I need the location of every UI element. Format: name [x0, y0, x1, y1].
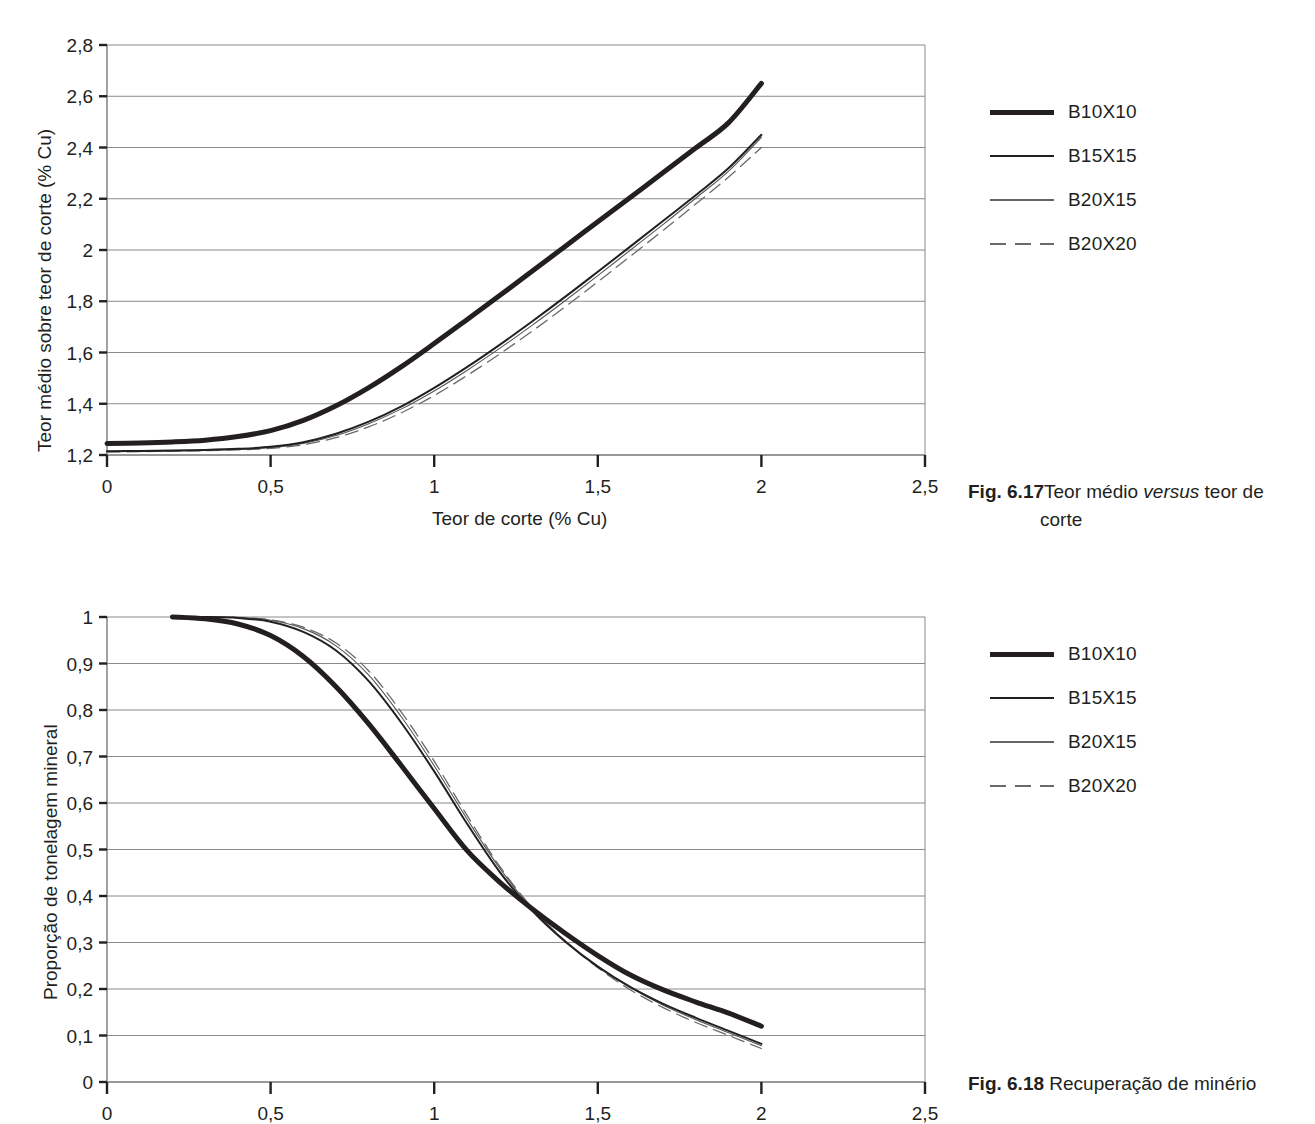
chart-2-y-axis-title: Proporção de tonelagem mineral	[40, 724, 62, 1000]
legend-item[interactable]: B20X15	[990, 720, 1137, 764]
series-line-B20X20	[172, 617, 761, 1049]
series-line-B20X15	[172, 617, 761, 1046]
chart-1-x-axis-title: Teor de corte (% Cu)	[432, 508, 607, 530]
svg-text:1,2: 1,2	[67, 445, 93, 466]
caption-text-line2: corte	[968, 506, 1308, 534]
chart-1-y-axis-title: Teor médio sobre teor de corte (% Cu)	[34, 129, 56, 452]
legend-line-swatch-thick	[990, 646, 1054, 662]
legend-label: B20X15	[1068, 731, 1137, 753]
legend-label: B15X15	[1068, 145, 1137, 167]
caption-text: Recuperação de minério	[1044, 1073, 1256, 1094]
svg-text:1,5: 1,5	[585, 1103, 611, 1124]
legend-item[interactable]: B15X15	[990, 676, 1137, 720]
chart-proporcao-tonelagem: 00,10,20,30,40,50,60,70,80,9100,511,522,…	[0, 575, 960, 1124]
caption-number: Fig. 6.17	[968, 481, 1044, 502]
legend-item[interactable]: B10X10	[990, 90, 1137, 134]
svg-text:1: 1	[429, 1103, 440, 1124]
legend-label: B10X10	[1068, 101, 1137, 123]
legend-item[interactable]: B15X15	[990, 134, 1137, 178]
svg-text:0,8: 0,8	[67, 700, 93, 721]
figure-caption-6-17: Fig. 6.17Teor médio versus teor de corte	[968, 478, 1308, 534]
caption-number: Fig. 6.18	[968, 1073, 1044, 1094]
legend-item[interactable]: B20X20	[990, 222, 1137, 266]
chart-1-canvas: 1,21,41,61,822,22,42,62,800,511,522,5	[0, 0, 960, 540]
svg-text:1: 1	[82, 607, 93, 628]
svg-text:2,5: 2,5	[912, 476, 938, 497]
svg-text:1,6: 1,6	[67, 343, 93, 364]
svg-text:1,5: 1,5	[585, 476, 611, 497]
legend-line-swatch-dashed	[990, 778, 1054, 794]
caption-text-b: teor de	[1199, 481, 1263, 502]
legend-line-swatch-thin	[990, 734, 1054, 750]
caption-emphasis: versus	[1143, 481, 1199, 502]
figure-caption-6-18: Fig. 6.18 Recuperação de minério	[968, 1070, 1308, 1098]
legend-label: B20X20	[1068, 775, 1137, 797]
svg-text:2,5: 2,5	[912, 1103, 938, 1124]
svg-text:1: 1	[429, 476, 440, 497]
svg-text:0,6: 0,6	[67, 793, 93, 814]
legend-label: B15X15	[1068, 687, 1137, 709]
legend-label: B20X20	[1068, 233, 1137, 255]
legend-label: B20X15	[1068, 189, 1137, 211]
svg-text:1,4: 1,4	[67, 394, 94, 415]
series-line-B20X15	[107, 137, 761, 451]
svg-text:2,2: 2,2	[67, 189, 93, 210]
legend-line-swatch-dashed	[990, 236, 1054, 252]
svg-text:2: 2	[82, 240, 93, 261]
svg-text:2,4: 2,4	[67, 138, 94, 159]
svg-text:0,7: 0,7	[67, 747, 93, 768]
series-line-B10X10	[172, 617, 761, 1026]
chart-2-canvas: 00,10,20,30,40,50,60,70,80,9100,511,522,…	[0, 575, 960, 1124]
series-line-B15X15	[172, 617, 761, 1044]
legend-item[interactable]: B10X10	[990, 632, 1137, 676]
legend-item[interactable]: B20X20	[990, 764, 1137, 808]
svg-text:0,5: 0,5	[257, 476, 283, 497]
legend-line-swatch-thick	[990, 104, 1054, 120]
legend-line-swatch-medium	[990, 148, 1054, 164]
svg-text:0,3: 0,3	[67, 933, 93, 954]
legend-label: B10X10	[1068, 643, 1137, 665]
svg-text:0: 0	[102, 476, 113, 497]
svg-text:0,1: 0,1	[67, 1026, 93, 1047]
svg-text:2,6: 2,6	[67, 86, 93, 107]
chart-2-legend: B10X10 B15X15 B20X15 B20X20	[990, 632, 1137, 808]
caption-text-a: Teor médio	[1044, 481, 1143, 502]
svg-text:1,8: 1,8	[67, 291, 93, 312]
series-line-B20X20	[107, 148, 761, 452]
svg-text:0,4: 0,4	[67, 886, 94, 907]
svg-text:2: 2	[756, 1103, 767, 1124]
svg-text:2: 2	[756, 476, 767, 497]
svg-text:0,2: 0,2	[67, 979, 93, 1000]
chart-1-legend: B10X10 B15X15 B20X15 B20X20	[990, 90, 1137, 266]
legend-line-swatch-thin	[990, 192, 1054, 208]
svg-text:0: 0	[102, 1103, 113, 1124]
svg-text:2,8: 2,8	[67, 35, 93, 56]
series-line-B10X10	[107, 83, 761, 443]
svg-text:0,5: 0,5	[67, 840, 93, 861]
chart-teor-medio: 1,21,41,61,822,22,42,62,800,511,522,5	[0, 0, 960, 540]
svg-text:0,9: 0,9	[67, 654, 93, 675]
svg-text:0,5: 0,5	[257, 1103, 283, 1124]
legend-item[interactable]: B20X15	[990, 178, 1137, 222]
svg-text:0: 0	[82, 1072, 93, 1093]
legend-line-swatch-medium	[990, 690, 1054, 706]
